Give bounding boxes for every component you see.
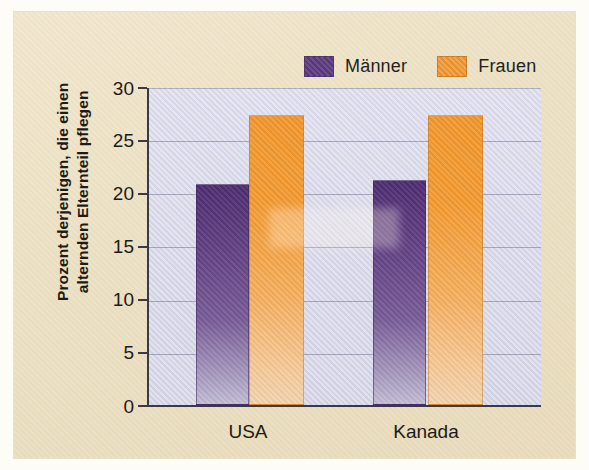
chart-paper: Männer Frauen Prozent derjenigen, die ei… [14, 12, 575, 458]
y-label-30: 30 [113, 78, 134, 100]
legend-label-maenner: Männer [345, 56, 407, 77]
plot-area [147, 88, 541, 407]
y-label-20: 20 [113, 183, 134, 205]
y-label-15: 15 [113, 236, 134, 258]
y-axis-title-line2: alternden Elternteil pflegen [73, 27, 93, 357]
y-tick-5 [138, 352, 147, 354]
y-label-5: 5 [123, 342, 134, 364]
y-axis-title-line1: Prozent derjenigen, die einen [53, 27, 73, 357]
y-axis-title: Prozent derjenigen, die einen alternden … [53, 27, 93, 357]
legend-label-frauen: Frauen [478, 56, 536, 77]
figure-root: Männer Frauen Prozent derjenigen, die ei… [0, 0, 589, 470]
y-label-25: 25 [113, 130, 134, 152]
bar-usa-frauen [249, 115, 304, 405]
y-label-10: 10 [113, 289, 134, 311]
y-tick-25 [138, 140, 147, 142]
bar-kanada-frauen [428, 115, 483, 405]
legend-swatch-maenner-icon [304, 56, 334, 77]
y-tick-30 [138, 87, 147, 89]
legend-swatch-frauen-icon [437, 56, 467, 77]
legend: Männer Frauen [304, 56, 536, 77]
y-label-0: 0 [123, 396, 134, 418]
y-tick-0 [138, 405, 147, 407]
legend-item-maenner: Männer [304, 56, 407, 77]
x-label-usa: USA [228, 421, 267, 443]
x-label-kanada: Kanada [393, 421, 459, 443]
legend-item-frauen: Frauen [437, 56, 536, 77]
plot-wrap: 0 5 10 15 20 25 30 [147, 88, 541, 407]
bar-usa-maenner [196, 184, 249, 405]
y-tick-15 [138, 246, 147, 248]
y-tick-10 [138, 299, 147, 301]
gridline-30 [149, 88, 541, 89]
bar-kanada-maenner [373, 180, 426, 405]
y-tick-20 [138, 193, 147, 195]
